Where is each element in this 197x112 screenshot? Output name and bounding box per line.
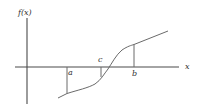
point-c-label: c (98, 55, 103, 64)
function-curve (58, 31, 168, 98)
point-a-label: a (68, 68, 73, 77)
y-axis-label: f(x) (17, 8, 32, 17)
function-diagram: f(x) x a c b (0, 0, 197, 112)
point-b-label: b (132, 69, 137, 78)
x-axis-label: x (185, 62, 190, 71)
